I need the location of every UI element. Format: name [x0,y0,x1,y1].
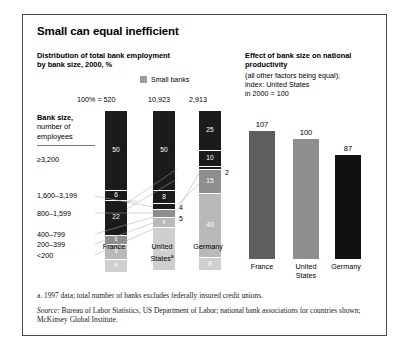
footnote-a: a. 1997 data; total number of banks excl… [37,291,377,301]
bar-group-germany: 87 [335,144,361,259]
right-heading-line2: productivity [245,60,375,69]
axis-title-rest: number of employees [37,122,73,140]
total-france: 100% = 520 [77,95,116,104]
bar-united-states [293,139,319,259]
left-chart-panel: Distribution of total bank employment by… [37,51,237,291]
right-chart-heading: Effect of bank size on national producti… [245,51,375,70]
left-country-labels: France United Statesa Germany [99,243,244,273]
segment-france-1600-3199: 6 [105,191,127,201]
bank-size-axis-title: Bank size, number of employees [37,113,97,141]
right-sub-line1: (all other factors being equal); [245,71,375,80]
segment-us-3200plus: 50 [153,111,175,191]
page-title: Small can equal inefficient [37,25,179,37]
country-label-united-states: United Statesa [145,243,179,264]
axis-title-bold: Bank size, [37,113,73,122]
exhibit-frame: Small can equal inefficient Distribution… [22,14,387,336]
left-heading-line2: by bank size, 2000, % [37,60,237,69]
segment-us-1600-3199: 8 [153,191,175,204]
source-note: Source: Bureau of Labor Statistics, US D… [37,306,377,325]
axis-divider [37,145,95,146]
left-heading-line1: Distribution of total bank employment [37,51,237,60]
legend-small-banks: Small banks [140,76,189,83]
right-country-label-germany: Germany [327,263,365,272]
total-germany: 2,913 [189,95,207,104]
right-country-label-france: France [243,263,281,272]
legend-swatch-icon [140,76,147,83]
country-label-germany: Germany [191,243,225,252]
segment-germany-400-799: 15 [199,170,221,194]
right-sub-line2: index: United States [245,80,375,89]
callout-germany-2: 2 [225,169,229,176]
right-sub-line3: in 2000 = 100 [245,89,375,98]
category-label-200-399: 200–399 [37,240,65,249]
source-label: Source: [37,306,60,315]
right-country-label-united-states: United States [287,263,325,280]
segment-us-400-799 [153,210,175,218]
footnotes: a. 1997 data; total number of banks excl… [37,291,377,325]
source-text: Bureau of Labor Statistics, US Departmen… [37,306,360,325]
category-label-400-799: 400–799 [37,230,65,239]
category-label-800-1599: 800–1,599 [37,209,71,218]
total-us: 10,923 [148,95,170,104]
bar-value-france: 107 [249,120,275,129]
segment-france-3200plus: 50 [105,111,127,191]
legend-label: Small banks [151,76,189,83]
segment-germany-3200plus: 25 [199,111,221,151]
category-label-1600-3199: 1,600–3,199 [37,191,77,200]
footnote-marker-a: a [171,253,174,259]
right-country-labels: France United States Germany [245,263,375,287]
country-label-france: France [97,243,131,252]
right-chart-panel: Effect of bank size on national producti… [245,51,375,291]
bar-france [249,131,275,259]
bar-value-germany: 87 [335,144,361,153]
bar-germany [335,155,361,259]
segment-us-200-399: 6 [153,218,175,228]
left-chart-heading: Distribution of total bank employment by… [37,51,237,70]
bar-group-united-states: 100 [293,128,319,259]
bar-group-france: 107 [249,120,275,259]
right-chart-subheading: (all other factors being equal); index: … [245,71,375,98]
segment-france-800-1599: 22 [105,201,127,236]
bar-value-united-states: 100 [293,128,319,137]
segment-germany-1600-3199: 10 [199,151,221,167]
callout-us-4: 4 [179,204,183,211]
right-heading-line1: Effect of bank size on national [245,51,375,60]
category-label-under200: <200 [37,251,53,260]
totals-row: 100% = 520 10,923 2,913 [77,95,237,105]
callout-us-5: 5 [179,215,183,222]
productivity-bars-group: 107 100 87 [245,109,375,259]
category-label-3200plus: ≥3,200 [37,155,59,164]
